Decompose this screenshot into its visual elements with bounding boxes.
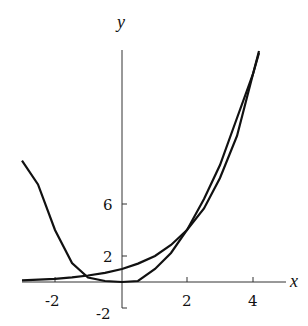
y-tick-label: 2 bbox=[103, 248, 113, 266]
x-axis-label: x bbox=[289, 271, 298, 291]
x-tick-label: 2 bbox=[182, 292, 192, 310]
x-tick-label: 4 bbox=[248, 292, 258, 310]
y-tick-label: -2 bbox=[96, 305, 111, 323]
x-tick-label: -2 bbox=[45, 292, 60, 310]
curve-two-power-x bbox=[22, 51, 259, 280]
y-axis-label: y bbox=[115, 12, 125, 32]
y-tick-label: 6 bbox=[103, 196, 113, 214]
chart-canvas: y x -2 2 4 6 2 -2 bbox=[0, 0, 308, 326]
